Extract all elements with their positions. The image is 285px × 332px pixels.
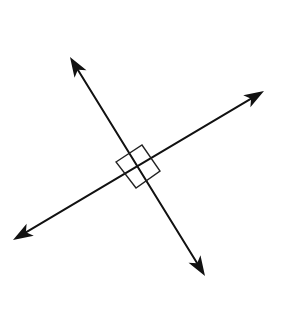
lines-group [13,57,264,276]
perpendicular-lines-diagram [0,0,285,332]
arrowhead-icon [70,57,86,78]
arrowhead-icon [243,91,264,107]
arrowhead-icon [13,224,34,240]
diagram-canvas [0,0,285,332]
arrowhead-icon [189,255,205,276]
line-b [77,69,197,264]
line-a [25,98,252,233]
